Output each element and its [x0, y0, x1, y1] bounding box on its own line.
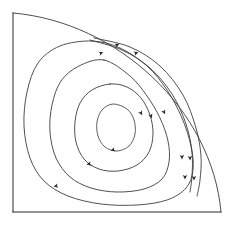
streamline-figure [0, 0, 233, 226]
streamline-plot-canvas [0, 0, 233, 226]
